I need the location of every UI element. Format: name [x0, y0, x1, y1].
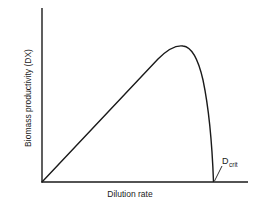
chart: Dcrit Dilution rate Biomass productivity…: [0, 0, 260, 203]
y-axis-label: Biomass productivity (DX): [23, 49, 33, 147]
dcrit-leader-line: [215, 166, 223, 181]
dcrit-label: Dcrit: [222, 156, 238, 168]
productivity-curve: [42, 46, 214, 182]
x-axis-label: Dilution rate: [107, 189, 153, 199]
dcrit-main: D: [222, 156, 229, 166]
dcrit-subscript: crit: [229, 161, 238, 168]
